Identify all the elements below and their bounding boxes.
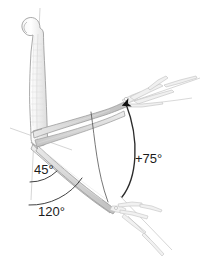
label-120-degrees: 120° (38, 204, 65, 219)
wrist-joint-extended-marker (124, 97, 127, 100)
elbow-rom-figure: 45° 120° +75° (0, 0, 208, 263)
label-75-degrees: +75° (135, 151, 162, 166)
label-45-degrees: 45° (34, 162, 54, 177)
wrist-joint-flexed-marker (115, 207, 118, 210)
elbow-rom-diagram: 45° 120° +75° (0, 0, 208, 263)
